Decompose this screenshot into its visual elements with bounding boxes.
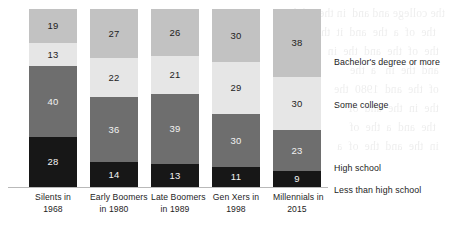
bar-column[interactable]: 19134028 [29,10,77,187]
bar-segment-value: 14 [109,170,120,180]
stacked-bar-chart: 191340282722361426213913302930113830239 … [0,0,455,225]
bar-segment-value: 29 [231,83,242,93]
bar-segment-value: 13 [170,171,181,181]
bar-stack: 19134028 [29,9,77,187]
bar-column[interactable]: 3830239 [273,10,321,187]
legend-item[interactable]: Some college [334,100,389,111]
bar-segment-value: 21 [170,70,181,80]
x-axis-label: Gen Xers in1998 [212,192,260,215]
bar-segment-value: 23 [292,146,303,156]
x-axis-label-line: in 1989 [151,204,199,216]
plot-area: 191340282722361426213913302930113830239 [8,10,328,188]
bar-segment[interactable]: 21 [151,56,199,94]
bar-segment-value: 30 [231,31,242,41]
bar-segment-value: 30 [231,136,242,146]
x-axis-label-line: Late Boomers [151,192,199,204]
bar-column[interactable]: 27223614 [90,10,138,187]
bar-segment-value: 13 [48,50,59,60]
bar-column[interactable]: 26213913 [151,10,199,187]
x-axis-label-line: 1998 [212,204,260,216]
x-axis-label-line: Early Boomers [90,192,138,204]
bar-segment[interactable]: 26 [151,9,199,56]
legend-item[interactable]: High school [334,163,381,174]
x-axis-label: Late Boomersin 1989 [151,192,199,215]
bar-segment-value: 30 [292,99,303,109]
bar-segment-value: 27 [109,29,120,39]
x-axis-label-line: Gen Xers in [212,192,260,204]
x-axis-labels: Silents in1968Early Boomersin 1980Late B… [8,192,328,215]
bar-stack: 27223614 [90,9,138,187]
bar-segment-value: 11 [231,172,241,182]
x-axis-label-line: 2015 [273,204,321,216]
bar-stack: 26213913 [151,9,199,187]
bar-segment-value: 40 [48,97,59,107]
bar-segment[interactable]: 29 [212,62,260,114]
bar-segment[interactable]: 36 [90,97,138,162]
bar-segment[interactable]: 30 [273,77,321,130]
x-axis-label: Silents in1968 [29,192,77,215]
x-axis-label-line: 1968 [29,204,77,216]
bar-segment[interactable]: 23 [273,130,321,171]
legend-item[interactable]: Bachelor's degree or more [334,57,440,68]
bar-segment-value: 26 [170,28,181,38]
legend-item[interactable]: Less than high school [334,185,421,196]
bar-segment-value: 36 [109,125,120,135]
bar-column[interactable]: 30293011 [212,10,260,187]
bar-segment[interactable]: 14 [90,162,138,187]
bar-segment[interactable]: 9 [273,171,321,187]
bar-segment[interactable]: 30 [212,9,260,62]
bar-group: 191340282722361426213913302930113830239 [8,10,328,187]
bar-segment[interactable]: 11 [212,167,260,187]
bar-segment[interactable]: 39 [151,94,199,164]
bar-segment-value: 19 [48,21,59,31]
bar-segment[interactable]: 38 [273,9,321,77]
series-legend: Bachelor's degree or moreSome collegeHig… [334,10,454,188]
bar-segment[interactable]: 13 [29,43,77,66]
bar-segment-value: 9 [294,174,299,184]
bar-segment-value: 28 [48,157,59,167]
x-axis-label-line: in 1980 [90,204,138,216]
bar-segment-value: 22 [109,73,120,83]
x-axis-label: Early Boomersin 1980 [90,192,138,215]
bar-segment[interactable]: 40 [29,66,77,137]
bar-segment[interactable]: 22 [90,58,138,98]
x-axis-label-line: Silents in [29,192,77,204]
x-axis-label-line: Millennials in [273,192,321,204]
x-axis-label: Millennials in2015 [273,192,321,215]
x-axis-baseline [8,187,328,188]
bar-segment-value: 38 [292,38,303,48]
bar-stack: 3830239 [273,9,321,187]
bar-segment[interactable]: 19 [29,9,77,43]
bar-segment[interactable]: 28 [29,137,77,187]
bar-segment-value: 39 [170,124,181,134]
bar-segment[interactable]: 30 [212,114,260,167]
bar-segment[interactable]: 13 [151,164,199,187]
bar-stack: 30293011 [212,9,260,187]
bar-segment[interactable]: 27 [90,9,138,58]
